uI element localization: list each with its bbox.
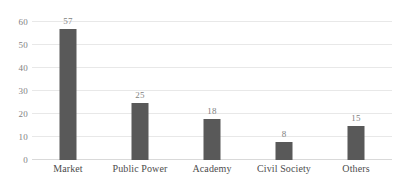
bar[interactable] [348, 126, 365, 161]
bar[interactable] [276, 142, 293, 160]
bar[interactable] [60, 29, 77, 160]
y-axis-tick-label: 20 [4, 110, 28, 119]
bar-group: 18 [176, 22, 248, 160]
category-label: Public Power [113, 163, 168, 175]
x-axis-category-labels: MarketPublic PowerAcademyCivil SocietyOt… [32, 163, 392, 183]
category-label: Others [342, 163, 369, 175]
bar-group: 15 [320, 22, 392, 160]
y-axis-tick-label: 0 [4, 156, 28, 165]
bar-group: 8 [248, 22, 320, 160]
plot-area: 572518815 [32, 22, 392, 160]
bar[interactable] [132, 103, 149, 161]
bar-value-label: 25 [135, 91, 144, 100]
category-label: Civil Society [257, 163, 311, 175]
bar[interactable] [204, 119, 221, 160]
y-axis-tick-label: 60 [4, 18, 28, 27]
bars-layer: 572518815 [32, 22, 392, 160]
bar-group: 25 [104, 22, 176, 160]
bar-value-label: 15 [351, 114, 360, 123]
bar-group: 57 [32, 22, 104, 160]
category-label: Market [53, 163, 82, 175]
bar-value-label: 57 [63, 17, 72, 26]
bar-chart: 0102030405060 572518815 MarketPublic Pow… [0, 0, 406, 193]
y-axis-tick-label: 30 [4, 87, 28, 96]
bar-value-label: 8 [282, 130, 287, 139]
y-axis-tick-label: 40 [4, 64, 28, 73]
category-label: Academy [192, 163, 231, 175]
bar-value-label: 18 [207, 107, 216, 116]
y-axis-tick-label: 10 [4, 133, 28, 142]
y-axis-tick-label: 50 [4, 41, 28, 50]
